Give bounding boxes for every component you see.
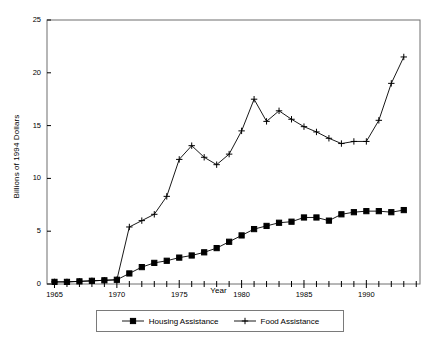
chart-legend: Housing AssistanceFood Assistance — [96, 310, 344, 332]
data-series — [51, 54, 407, 285]
chart-figure: Billions of 1994 Dollars Year 0510152025… — [0, 0, 437, 342]
x-tick-label: 1975 — [159, 290, 199, 299]
axes-frame — [47, 20, 420, 284]
legend-entry-food-assistance[interactable]: Food Assistance — [233, 316, 320, 326]
y-tick-label: 0 — [15, 279, 41, 288]
y-tick-label: 20 — [15, 68, 41, 77]
y-tick-label: 25 — [15, 15, 41, 24]
legend-label: Food Assistance — [261, 317, 320, 326]
y-tick-label: 10 — [15, 173, 41, 182]
x-tick-label: 1985 — [284, 290, 324, 299]
legend-entry-housing-assistance[interactable]: Housing Assistance — [121, 316, 219, 326]
x-tick-label: 1980 — [222, 290, 262, 299]
y-tick-label: 5 — [15, 226, 41, 235]
y-axis-title: Billions of 1994 Dollars — [12, 97, 21, 217]
y-tick-label: 15 — [15, 121, 41, 130]
x-tick-label: 1970 — [97, 290, 137, 299]
legend-label: Housing Assistance — [149, 317, 219, 326]
plus-marker-icon — [233, 316, 257, 326]
x-tick-label: 1990 — [346, 290, 386, 299]
x-tick-label: 1965 — [34, 290, 74, 299]
filled-square-marker-icon — [121, 316, 145, 326]
